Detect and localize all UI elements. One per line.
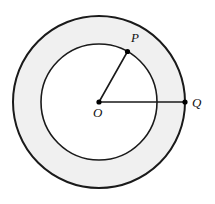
annulus-diagram: O P Q [0, 0, 215, 204]
point-p-label: P [130, 30, 139, 45]
point-o-marker [96, 99, 101, 104]
figure-canvas: O P Q [0, 0, 215, 204]
point-q-marker [182, 99, 187, 104]
point-p-marker [125, 49, 130, 54]
point-q-label: Q [192, 95, 202, 110]
point-o-label: O [93, 105, 103, 120]
